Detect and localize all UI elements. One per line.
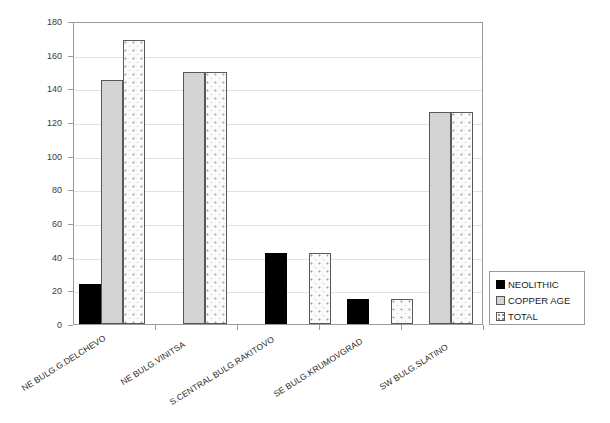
bar-chart: 180 160 140 120 100 80 60 40 20 0 (0, 0, 610, 423)
legend-label-copper-age: COPPER AGE (508, 296, 570, 306)
legend-label-neolithic: NEOLITHIC (508, 280, 559, 290)
bar-copper-age-ne-bulg-g-delchevo (101, 80, 123, 324)
y-tick-label: 140 (0, 85, 62, 94)
y-tick-mark (68, 325, 73, 326)
legend-swatch-copper-age-icon (496, 296, 505, 305)
legend-swatch-total-icon (496, 312, 505, 321)
legend-item-neolithic: NEOLITHIC (496, 277, 579, 292)
bar-neolithic-ne-bulg-g-delchevo (79, 284, 101, 324)
x-tick-mark (483, 325, 484, 330)
bar-neolithic-s-central-bulg-rakitovo (265, 253, 287, 324)
bar-neolithic-se-bulg-krumovgrad (347, 299, 369, 324)
legend-swatch-neolithic-icon (496, 280, 505, 289)
y-tick-label: 40 (0, 254, 62, 263)
bar-total-ne-bulg-vinitsa (205, 72, 227, 325)
legend: NEOLITHIC COPPER AGE TOTAL (489, 271, 585, 325)
y-tick-label: 180 (0, 18, 62, 27)
legend-item-copper-age: COPPER AGE (496, 293, 579, 308)
legend-label-total: TOTAL (508, 312, 538, 322)
y-tick-label: 120 (0, 119, 62, 128)
x-axis-label-sw-bulg-slatino: SW BULG.SLATINO (378, 342, 450, 392)
bar-copper-age-sw-bulg-slatino (429, 112, 451, 324)
x-axis-label-se-bulg-krumovgrad: SE BULG.KRUMOVGRAD (272, 336, 365, 399)
x-tick-mark (237, 325, 238, 330)
y-tick-label: 60 (0, 220, 62, 229)
y-tick-label: 80 (0, 186, 62, 195)
legend-item-total: TOTAL (496, 309, 579, 324)
y-tick-label: 0 (0, 321, 62, 330)
bar-total-sw-bulg-slatino (451, 112, 473, 324)
y-tick-label: 160 (0, 52, 62, 61)
x-tick-mark (401, 325, 402, 330)
y-tick-label: 20 (0, 287, 62, 296)
x-tick-mark (319, 325, 320, 330)
bar-total-s-central-bulg-rakitovo (309, 253, 331, 324)
x-axis-label-ne-bulg-vinitsa: NE BULG.VINITSA (119, 339, 187, 387)
bar-copper-age-ne-bulg-vinitsa (183, 72, 205, 325)
bar-total-ne-bulg-g-delchevo (123, 40, 145, 324)
bar-total-se-bulg-krumovgrad (391, 299, 413, 324)
y-tick-label: 100 (0, 153, 62, 162)
plot-area (73, 22, 483, 325)
x-tick-mark (155, 325, 156, 330)
